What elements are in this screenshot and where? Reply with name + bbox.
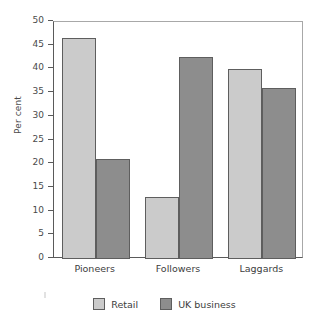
bar-pioneers-uk-business — [96, 159, 130, 259]
legend-item-retail[interactable]: Retail — [93, 298, 138, 310]
bar-followers-retail — [145, 197, 179, 259]
bar-laggards-uk-business — [262, 88, 296, 259]
legend-label: UK business — [178, 299, 236, 310]
bar-pioneers-retail — [62, 38, 96, 259]
plot-area — [53, 21, 303, 258]
bar-chart: Per cent 05101520253035404550 PioneersFo… — [0, 0, 329, 329]
y-axis-tick-label: 45 — [0, 38, 44, 51]
legend-label: Retail — [111, 299, 138, 310]
y-axis-tick-label: 0 — [0, 251, 44, 264]
y-axis-tick-label: 50 — [0, 14, 44, 27]
bar-laggards-retail — [228, 69, 262, 259]
y-axis-tick-label: 20 — [0, 156, 44, 169]
x-axis-label-laggards: Laggards — [220, 263, 303, 274]
bar-followers-uk-business — [179, 57, 213, 259]
y-axis-tick-label: 25 — [0, 133, 44, 146]
legend-item-uk-business[interactable]: UK business — [160, 298, 236, 310]
x-axis-label-followers: Followers — [136, 263, 219, 274]
y-axis-tick-label: 15 — [0, 180, 44, 193]
y-axis-tick-label: 30 — [0, 109, 44, 122]
y-axis-tick-label: 35 — [0, 85, 44, 98]
y-axis-tick-label: 40 — [0, 61, 44, 74]
legend-swatch-icon — [160, 298, 172, 310]
legend-swatch-icon — [93, 298, 105, 310]
x-axis-label-pioneers: Pioneers — [53, 263, 136, 274]
y-axis-tick-label: 5 — [0, 227, 44, 240]
y-axis-tick-label: 10 — [0, 204, 44, 217]
chart-legend: RetailUK business — [0, 298, 329, 310]
scan-artifact-mark — [44, 292, 46, 298]
